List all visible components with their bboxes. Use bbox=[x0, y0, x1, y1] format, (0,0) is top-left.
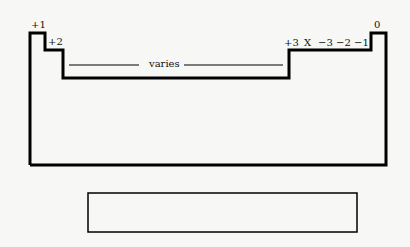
label-group-1: +1 bbox=[31, 20, 46, 30]
inner-transition-box bbox=[88, 193, 357, 232]
label-group-18: 0 bbox=[374, 20, 380, 30]
main-table-outline bbox=[30, 33, 386, 165]
label-transition-varies: varies bbox=[149, 59, 180, 69]
label-group-17: −1 bbox=[354, 38, 369, 48]
label-group-15: −3 bbox=[318, 38, 333, 48]
label-group-13: +3 bbox=[284, 38, 299, 48]
label-group-2: +2 bbox=[48, 37, 63, 47]
label-group-16: −2 bbox=[336, 38, 351, 48]
label-group-14: X bbox=[304, 38, 311, 48]
